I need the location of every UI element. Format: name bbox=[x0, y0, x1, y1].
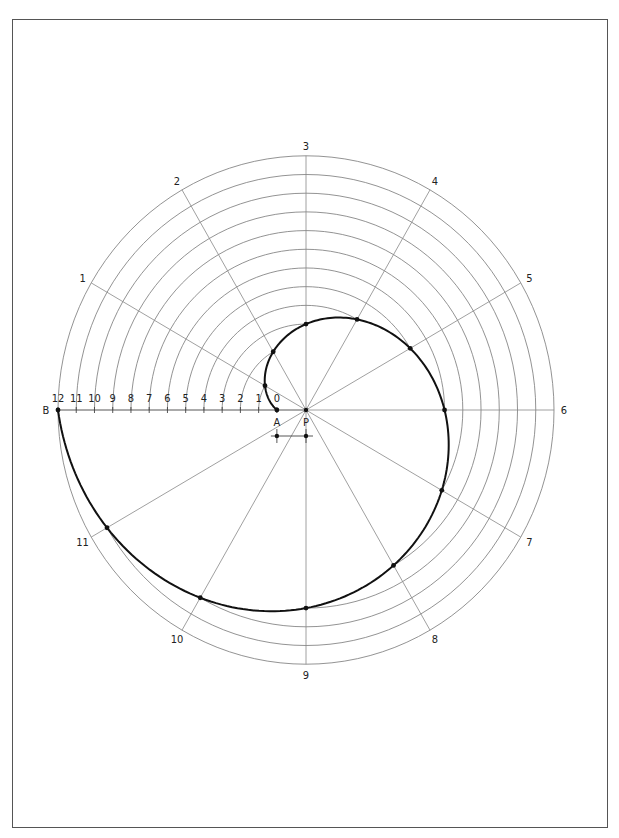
ray-label-11: 11 bbox=[76, 536, 89, 549]
ray-label-6: 6 bbox=[561, 404, 567, 417]
curve-point-7 bbox=[439, 488, 444, 493]
ray-label-8: 8 bbox=[432, 633, 438, 646]
dimension-dot-P bbox=[304, 434, 308, 438]
curve-point-4 bbox=[355, 317, 360, 322]
construction-circle-3 bbox=[222, 324, 306, 410]
horizontal-axis bbox=[58, 407, 306, 413]
axis-label-6: 6 bbox=[164, 392, 170, 405]
axis-label-12: 12 bbox=[52, 392, 65, 405]
ray-7 bbox=[306, 410, 521, 537]
ray-label-2: 2 bbox=[174, 175, 180, 188]
spiral-diagram: 12345678910110123456789101112BAP bbox=[0, 0, 619, 838]
center-point bbox=[304, 408, 308, 412]
axis-label-2: 2 bbox=[237, 392, 243, 405]
point-label-B: B bbox=[43, 404, 50, 417]
axis-label-10: 10 bbox=[88, 392, 101, 405]
spiral-curve bbox=[58, 318, 449, 612]
axis-label-8: 8 bbox=[128, 392, 134, 405]
curve-point-3 bbox=[304, 322, 309, 327]
ray-2 bbox=[182, 190, 306, 410]
axis-label-11: 11 bbox=[70, 392, 83, 405]
axis-label-0: 0 bbox=[274, 392, 280, 405]
curve-point-0 bbox=[274, 408, 279, 413]
ray-label-5: 5 bbox=[526, 272, 532, 285]
point-label-P: P bbox=[303, 416, 309, 429]
ray-11 bbox=[91, 410, 306, 537]
axis-label-4: 4 bbox=[201, 392, 207, 405]
axis-label-1: 1 bbox=[255, 392, 261, 405]
ray-label-7: 7 bbox=[526, 536, 532, 549]
axis-label-3: 3 bbox=[219, 392, 225, 405]
dimension-dot-A bbox=[275, 434, 279, 438]
construction-circle-4 bbox=[204, 305, 357, 410]
axis-label-7: 7 bbox=[146, 392, 152, 405]
curve-point-12 bbox=[56, 408, 61, 413]
ray-5 bbox=[306, 283, 521, 410]
curve-point-9 bbox=[304, 606, 309, 611]
curve-point-1 bbox=[263, 383, 268, 388]
curve-point-2 bbox=[271, 349, 276, 354]
ray-label-10: 10 bbox=[171, 633, 184, 646]
point-label-A: A bbox=[273, 416, 280, 429]
ray-label-3: 3 bbox=[303, 140, 309, 153]
ray-label-1: 1 bbox=[79, 272, 85, 285]
curve-point-8 bbox=[391, 563, 396, 568]
axis-label-5: 5 bbox=[183, 392, 189, 405]
ray-4 bbox=[306, 190, 430, 410]
curve-point-10 bbox=[198, 595, 203, 600]
curve-point-5 bbox=[408, 346, 413, 351]
curve-point-11 bbox=[105, 525, 110, 530]
ray-1 bbox=[91, 283, 306, 410]
axis-label-9: 9 bbox=[110, 392, 116, 405]
curve-point-6 bbox=[442, 408, 447, 413]
ray-8 bbox=[306, 410, 430, 630]
ray-label-4: 4 bbox=[432, 175, 438, 188]
ray-label-9: 9 bbox=[303, 669, 309, 682]
spiral-curve-group bbox=[56, 317, 449, 611]
